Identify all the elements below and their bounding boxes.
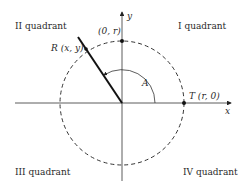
quadrant-2-label: II quadrant xyxy=(15,21,67,31)
point-top xyxy=(120,39,124,43)
point-r xyxy=(84,47,88,51)
x-axis-label: x xyxy=(225,106,230,116)
quadrant-3-label: III quadrant xyxy=(15,167,71,177)
label-t-point: T (r, 0) xyxy=(189,91,220,101)
angle-label: A xyxy=(141,78,149,88)
y-axis-label: y xyxy=(126,11,133,21)
quadrant-4-label: IV quadrant xyxy=(183,167,238,177)
quadrant-1-label: I quadrant xyxy=(178,21,227,31)
label-r-point: R (x, y) xyxy=(50,43,84,53)
label-top-point: (0, r) xyxy=(98,26,121,36)
point-t xyxy=(182,101,186,105)
unit-circle-diagram: y x (0, r) T (r, 0) R (x, y) A II quadra… xyxy=(0,0,243,189)
